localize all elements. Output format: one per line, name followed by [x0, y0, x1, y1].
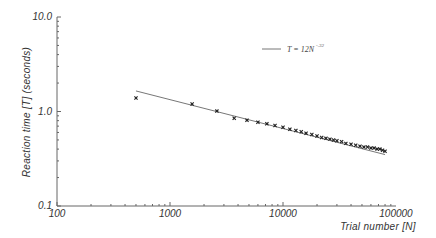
data-point-marker [340, 140, 343, 143]
fit-line [136, 91, 385, 155]
x-tick-label-100000: 100000 [379, 208, 413, 219]
tick-labels: 10.0 1.0 0.1 100 1000 10000 100000 [33, 11, 414, 219]
legend-label: T = 12N-.32 [287, 43, 324, 54]
data-point-marker [369, 146, 372, 149]
fit-line-path [136, 91, 385, 155]
legend: T = 12N-.32 [262, 43, 324, 54]
x-tick-label-1000: 1000 [159, 208, 182, 219]
data-point-marker [372, 146, 375, 149]
power-law-chart: 10.0 1.0 0.1 100 1000 10000 100000 Trial… [0, 0, 436, 238]
legend-label-main: T = 12N [287, 45, 315, 54]
data-point-marker [362, 146, 365, 149]
y-tick-label-10: 10.0 [33, 11, 53, 22]
x-axis-title: Trial number [N] [340, 221, 416, 232]
y-ticks [57, 17, 61, 206]
data-point-marker [366, 146, 369, 149]
data-markers [134, 96, 386, 152]
data-point-marker [354, 144, 357, 147]
axes [57, 17, 396, 206]
legend-label-exponent: -.32 [316, 43, 324, 48]
y-axis-title: Reaction time [T] (seconds) [21, 47, 32, 177]
x-tick-label-10000: 10000 [269, 208, 297, 219]
data-point-marker [233, 117, 236, 120]
y-tick-label-1: 1.0 [38, 106, 52, 117]
x-ticks [57, 202, 391, 206]
data-point-marker [134, 96, 137, 99]
data-point-marker [358, 145, 361, 148]
x-tick-label-100: 100 [49, 208, 66, 219]
